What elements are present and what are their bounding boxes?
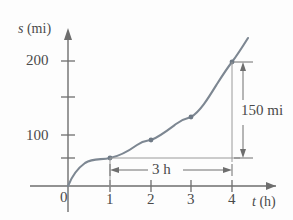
x-axis-arrowhead	[266, 182, 276, 190]
y-axis-unit: (mi)	[27, 21, 51, 36]
x-tick-label-2: 2	[147, 192, 155, 207]
data-point-markers	[108, 60, 235, 161]
y-axis-arrowhead	[64, 28, 72, 40]
x-axis-title: t (h)	[252, 195, 276, 209]
vertical-dimension-arrowhead-bottom	[240, 149, 246, 158]
y-axis-title: s (mi)	[18, 22, 51, 36]
vertical-dimension-label: 150 mi	[241, 103, 283, 118]
horizontal-dimension-label: 3 h	[152, 162, 171, 177]
y-tick-label-200: 200	[26, 53, 49, 68]
x-tick-label-3: 3	[187, 192, 195, 207]
y-tick-label-100: 100	[26, 128, 49, 143]
x-axis-unit: (h)	[259, 194, 275, 209]
origin-label: 0	[60, 190, 68, 205]
data-point-t3	[189, 115, 194, 120]
distance-time-graph-figure: s (mi) t (h) 0 200 100 1 2 3 4 3 h 150 m…	[0, 0, 293, 220]
x-tick-label-1: 1	[106, 192, 114, 207]
horizontal-dimension-arrowhead-right	[223, 167, 232, 173]
x-axis-variable: t	[252, 194, 256, 209]
data-point-t2	[149, 138, 154, 143]
horizontal-dimension-arrow	[110, 164, 232, 176]
y-axis-variable: s	[18, 21, 23, 36]
x-tick-label-4: 4	[228, 192, 236, 207]
vertical-dimension-arrowhead-top	[240, 62, 246, 71]
horizontal-dimension-arrowhead-left	[110, 167, 119, 173]
